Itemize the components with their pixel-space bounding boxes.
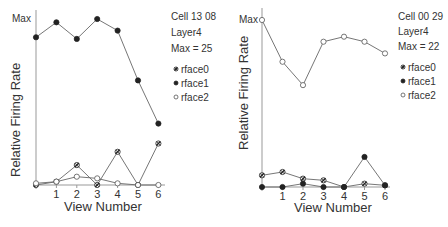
x-tick-label: 6 xyxy=(382,190,388,202)
data-point xyxy=(259,184,264,189)
annotation-cell: Cell 13 08 xyxy=(171,11,216,22)
data-point xyxy=(54,179,59,184)
series-line-rface1 xyxy=(36,19,158,124)
legend-rface2: rface2 xyxy=(181,92,209,103)
data-point xyxy=(401,93,405,97)
data-point xyxy=(115,181,120,186)
data-point xyxy=(341,184,346,189)
data-point xyxy=(115,28,120,33)
data-point xyxy=(74,174,79,179)
chart-left: 123456 Max Relative Firing Rate View Num… xyxy=(0,0,224,227)
data-point xyxy=(95,16,100,21)
data-point xyxy=(280,59,285,64)
data-point xyxy=(156,182,161,187)
data-point xyxy=(362,154,367,159)
data-point xyxy=(401,79,405,83)
x-tick-label: 6 xyxy=(155,188,161,200)
legend-rface1: rface1 xyxy=(181,78,209,89)
series-line-rface2 xyxy=(262,20,385,85)
y-max-label: Max xyxy=(12,13,31,24)
annotation-layer: Layer4 xyxy=(398,26,429,37)
y-axis-label: Relative Firing Rate xyxy=(8,63,23,177)
data-point xyxy=(54,20,59,25)
annotation-cell: Cell 00 29 xyxy=(398,11,443,22)
data-point xyxy=(156,121,161,126)
annotation-max: Max = 25 xyxy=(171,43,212,54)
x-tick-label: 1 xyxy=(53,188,59,200)
x-axis-label: View Number xyxy=(64,199,142,214)
data-point xyxy=(341,34,346,39)
chart-right: 123456 Max Relative Firing Rate View Num… xyxy=(224,0,448,227)
data-point xyxy=(174,95,178,99)
legend-rface1: rface1 xyxy=(408,76,436,87)
legend-rface2: rface2 xyxy=(408,90,436,101)
y-axis-label: Relative Firing Rate xyxy=(236,36,251,150)
data-point xyxy=(74,36,79,41)
data-point xyxy=(259,17,264,22)
annotation-max: Max = 22 xyxy=(398,41,439,52)
data-point xyxy=(382,183,387,188)
data-point xyxy=(135,78,140,83)
data-point xyxy=(95,176,100,181)
data-point xyxy=(382,51,387,56)
legend-rface0: rface0 xyxy=(408,62,436,73)
data-point xyxy=(362,39,367,44)
data-point xyxy=(321,184,326,189)
x-axis-label: View Number xyxy=(294,200,372,215)
data-point xyxy=(300,181,305,186)
data-point xyxy=(174,81,178,85)
annotation-layer: Layer4 xyxy=(171,27,202,38)
data-point xyxy=(135,182,140,187)
data-point xyxy=(33,35,38,40)
data-point xyxy=(300,83,305,88)
x-tick-label: 1 xyxy=(279,190,285,202)
legend-rface0: rface0 xyxy=(181,64,209,75)
y-max-label: Max xyxy=(239,14,258,25)
data-point xyxy=(321,39,326,44)
data-point xyxy=(280,184,285,189)
data-point xyxy=(33,181,38,186)
